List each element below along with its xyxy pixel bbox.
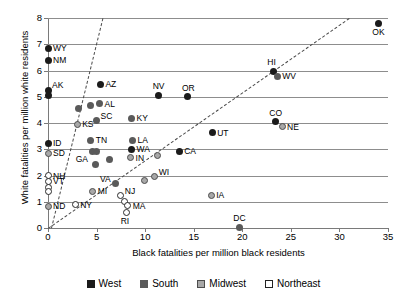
point-label-ks: KS <box>82 120 93 129</box>
data-point-or <box>184 93 191 100</box>
data-point-al <box>96 100 103 107</box>
legend-item-south[interactable]: South <box>140 278 178 289</box>
data-point-mi <box>89 188 96 195</box>
data-point-ca <box>176 148 183 155</box>
plot-area: WYNMAKIDSDNHVTNDKSAZALSCTNGAVAMINYNJMARI… <box>48 18 388 228</box>
point-label-vt: VT <box>53 177 64 186</box>
point-label-or: OR <box>182 84 195 93</box>
legend-label: West <box>99 278 122 289</box>
x-tick-label: 20 <box>230 232 254 242</box>
x-tick-label: 10 <box>133 232 157 242</box>
x-tick-label: 5 <box>85 232 109 242</box>
data-point-wv <box>274 73 281 80</box>
point-label-nm: NM <box>53 56 66 65</box>
x-tick-mark <box>339 228 340 232</box>
y-tick-label: 6 <box>28 66 42 76</box>
y-tick-label: 5 <box>28 92 42 102</box>
point-label-ma: MA <box>133 202 146 211</box>
point-label-nd: ND <box>53 202 65 211</box>
x-tick-mark <box>145 228 146 232</box>
data-point-wa <box>128 146 135 153</box>
point-label-sd: SD <box>53 149 65 158</box>
point-label-ak: AK <box>52 81 63 90</box>
data-point-nm <box>45 57 52 64</box>
y-tick-label: 1 <box>28 197 42 207</box>
legend: WestSouthMidwestNortheast <box>0 278 407 289</box>
data-point <box>45 92 52 99</box>
data-point <box>92 161 99 168</box>
x-tick-label: 25 <box>279 232 303 242</box>
data-point-tn <box>87 137 94 144</box>
data-point <box>106 156 113 163</box>
point-label-tn: TN <box>96 136 107 145</box>
legend-swatch-icon <box>87 280 95 288</box>
data-point-la <box>129 137 136 144</box>
point-label-ky: KY <box>137 114 148 123</box>
x-tick-mark <box>388 228 389 232</box>
point-label-va: VA <box>100 175 111 184</box>
data-point-wi <box>151 173 158 180</box>
data-point-dc <box>236 224 243 231</box>
point-label-sc: SC <box>101 112 113 121</box>
x-tick-label: 30 <box>327 232 351 242</box>
point-label-wi: WI <box>159 168 169 177</box>
point-label-ne: NE <box>287 123 299 132</box>
y-tick-label: 2 <box>28 171 42 181</box>
data-point-nv <box>155 92 162 99</box>
point-label-ia: IA <box>216 191 224 200</box>
data-point <box>141 177 148 184</box>
point-label-wv: WV <box>282 72 296 81</box>
data-point-in <box>127 154 134 161</box>
x-tick-label: 35 <box>376 232 400 242</box>
point-label-ok: OK <box>372 28 384 37</box>
point-label-co: CO <box>269 109 282 118</box>
data-point-az <box>97 81 104 88</box>
data-point <box>45 188 52 195</box>
data-point-ne <box>279 123 286 130</box>
scatter-plot-figure: White fatalities per million white resid… <box>0 0 407 306</box>
x-tick-label: 15 <box>182 232 206 242</box>
y-tick-label: 7 <box>28 39 42 49</box>
data-point-sd <box>45 150 52 157</box>
data-point-ri <box>123 209 130 216</box>
data-point-co <box>272 118 279 125</box>
data-point-id <box>45 140 52 147</box>
point-label-nv: NV <box>153 82 165 91</box>
point-label-id: ID <box>53 139 62 148</box>
legend-item-northeast[interactable]: Northeast <box>265 278 320 289</box>
legend-item-midwest[interactable]: Midwest <box>197 278 246 289</box>
data-point-ia <box>208 192 215 199</box>
data-point-ky <box>128 115 135 122</box>
legend-item-west[interactable]: West <box>87 278 122 289</box>
y-tick-label: 4 <box>28 118 42 128</box>
point-label-ri: RI <box>121 217 130 226</box>
point-label-ca: CA <box>184 147 196 156</box>
point-label-nj: NJ <box>125 187 135 196</box>
legend-label: Northeast <box>277 278 320 289</box>
legend-swatch-icon <box>197 280 205 288</box>
data-point-nd <box>45 203 52 210</box>
y-tick-label: 8 <box>28 13 42 23</box>
data-point <box>87 102 94 109</box>
point-label-wy: WY <box>53 44 67 53</box>
data-point <box>75 105 82 112</box>
point-label-ut: UT <box>217 129 228 138</box>
data-point-ut <box>209 129 216 136</box>
x-tick-mark <box>194 228 195 232</box>
x-axis-title: Black fatalities per million black resid… <box>48 247 389 258</box>
point-label-in: IN <box>136 154 145 163</box>
y-tick-label: 3 <box>28 144 42 154</box>
x-axis-line <box>48 228 389 229</box>
x-tick-label: 0 <box>36 232 60 242</box>
point-label-mi: MI <box>98 187 107 196</box>
data-point-ok <box>375 20 382 27</box>
data-point <box>93 148 100 155</box>
x-tick-mark <box>97 228 98 232</box>
point-label-ga: GA <box>76 155 88 164</box>
point-label-dc: DC <box>233 214 245 223</box>
data-point <box>154 152 161 159</box>
legend-label: South <box>152 278 178 289</box>
point-label-ny: NY <box>80 201 92 210</box>
legend-swatch-icon <box>265 280 273 288</box>
data-point-ks <box>74 121 81 128</box>
